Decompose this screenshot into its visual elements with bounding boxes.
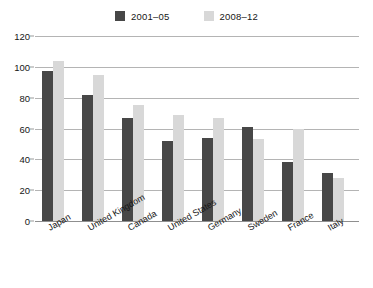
bar[interactable] [253, 139, 264, 221]
y-tick-label-120: 120 [14, 31, 30, 42]
y-tick-label-0: 0 [25, 216, 30, 227]
y-tick-mark-20 [30, 190, 34, 191]
bar-group [242, 36, 264, 221]
bar[interactable] [173, 115, 184, 221]
bar[interactable] [82, 95, 93, 221]
legend-label-2008-12: 2008–12 [220, 11, 258, 22]
y-tick-mark-40 [30, 159, 34, 160]
chart-legend: 2001–05 2008–12 [0, 6, 373, 26]
y-tick-label-60: 60 [19, 123, 30, 134]
y-tick-mark-0 [30, 221, 34, 222]
bar[interactable] [322, 173, 333, 221]
y-tick-mark-60 [30, 128, 34, 129]
y-tick-label-100: 100 [14, 61, 30, 72]
y-tick-mark-120 [30, 36, 34, 37]
y-tick-mark-80 [30, 97, 34, 98]
legend-swatch-2008-12 [204, 11, 214, 21]
bar[interactable] [93, 75, 104, 221]
bar[interactable] [293, 129, 304, 222]
legend-item-2008-12: 2008–12 [204, 11, 258, 22]
bar[interactable] [53, 61, 64, 221]
bar-chart: 2001–05 2008–12 020406080100120 JapanUni… [0, 0, 373, 288]
y-tick-mark-100 [30, 66, 34, 67]
bar-group [82, 36, 104, 221]
legend-swatch-2001-05 [115, 11, 125, 21]
bar-group [282, 36, 304, 221]
y-tick-label-40: 40 [19, 154, 30, 165]
bar-group [42, 36, 64, 221]
bar[interactable] [242, 127, 253, 221]
y-tick-label-20: 20 [19, 185, 30, 196]
bar-group [202, 36, 224, 221]
bar-group [162, 36, 184, 221]
bar[interactable] [42, 71, 53, 221]
y-tick-label-80: 80 [19, 92, 30, 103]
bar-group [322, 36, 344, 221]
bar[interactable] [333, 178, 344, 221]
plot-area: 020406080100120 [35, 36, 359, 221]
legend-label-2001-05: 2001–05 [131, 11, 169, 22]
bar[interactable] [162, 141, 173, 221]
legend-item-2001-05: 2001–05 [115, 11, 169, 22]
bar[interactable] [282, 162, 293, 221]
